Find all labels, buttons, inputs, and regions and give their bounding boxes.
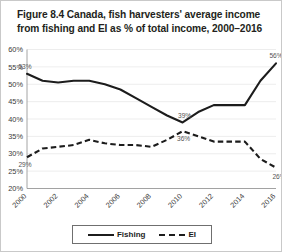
series-line-fishing: [27, 63, 276, 122]
data-point-label: 26%: [272, 173, 282, 180]
legend-swatch-solid-icon: [88, 234, 114, 236]
legend-label-fishing: Fishing: [117, 230, 145, 239]
data-point-label: 56%: [269, 52, 282, 59]
x-axis-tick-label: 2016: [259, 192, 277, 210]
y-axis-tick-label: 40%: [8, 115, 23, 124]
x-axis-tick-label: 2008: [135, 192, 153, 210]
x-axis-tick-label: 2012: [197, 192, 215, 210]
series-group: [27, 63, 276, 167]
legend-item-fishing: Fishing: [88, 230, 145, 239]
legend-label-ei: EI: [188, 230, 196, 239]
data-labels-group: 53%39%56%29%36%26%: [18, 52, 282, 179]
x-axis-tick-label: 2010: [166, 192, 184, 210]
data-point-label: 36%: [177, 135, 190, 142]
x-axis-tick-label: 2004: [73, 192, 91, 210]
y-axis-tick-label: 60%: [8, 45, 23, 54]
chart-figure: Figure 8.4 Canada, fish harvesters' aver…: [0, 0, 282, 252]
data-point-label: 53%: [18, 63, 31, 70]
x-axis-tick-label: 2014: [228, 192, 246, 210]
x-axis-labels-group: 200020022004200620082010201220142016: [10, 192, 277, 210]
y-axis-tick-label: 45%: [8, 97, 23, 106]
gridlines-group: [27, 50, 276, 189]
x-axis-tick-label: 2000: [10, 192, 28, 210]
line-chart-plot: 60%55%50%45%40%35%30%25%20% 200020022004…: [1, 1, 282, 252]
data-point-label: 39%: [178, 112, 191, 119]
y-axis-tick-label: 30%: [8, 149, 23, 158]
chart-legend: Fishing EI: [72, 225, 212, 244]
x-axis-tick-label: 2002: [42, 192, 60, 210]
legend-item-ei: EI: [159, 230, 196, 239]
y-axis-tick-label: 50%: [8, 80, 23, 89]
data-point-label: 29%: [18, 161, 31, 168]
y-axis-tick-label: 35%: [8, 132, 23, 141]
legend-swatch-dashed-icon: [159, 234, 185, 236]
x-axis-tick-label: 2006: [104, 192, 122, 210]
